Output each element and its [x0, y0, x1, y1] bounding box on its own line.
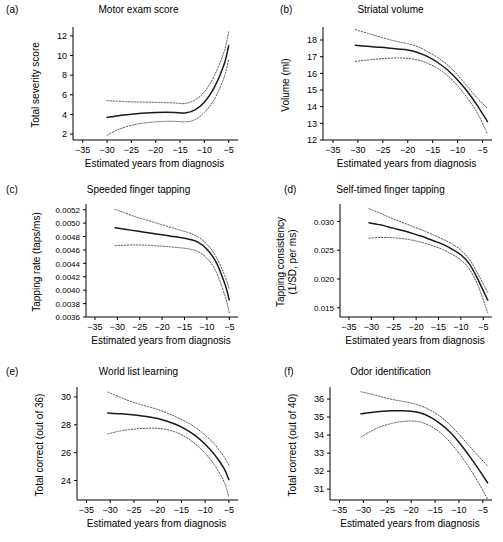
panel-e: (e)World list learning24262830−35−30−25−…	[0, 362, 251, 542]
series-upper-95-ci-e	[108, 392, 229, 465]
x-axis-ticks-b: −35−30−25−20−15−10−5	[325, 140, 487, 155]
axes-d	[340, 204, 492, 317]
x-tick-label: −25	[386, 322, 401, 332]
x-axis-ticks-c: −35−30−25−20−15−10−5	[87, 317, 234, 332]
series-upper-95-ci-c	[115, 209, 229, 289]
axes-a	[73, 27, 238, 140]
x-tick-label: −25	[375, 145, 390, 155]
panel-b: (b)Striatal volume12131415161718−35−30−2…	[252, 0, 503, 180]
y-tick-label: 0.015	[314, 304, 335, 313]
x-tick-label: −15	[177, 322, 192, 332]
y-tick-label: 15	[307, 85, 317, 95]
y-tick-label: 4	[62, 110, 67, 120]
series-lower-95-ci-f	[361, 421, 488, 499]
x-tick-label: −35	[332, 505, 347, 515]
y-tick-label: 0.0042	[56, 273, 81, 282]
axes-f	[330, 387, 492, 500]
plot-area-f: 313233343536−35−30−25−20−15−10−5Estimate…	[252, 362, 503, 542]
y-axis-label-d: (1/SD, per ms)	[287, 229, 298, 294]
x-tick-label: −25	[132, 322, 147, 332]
x-tick-label: −30	[350, 145, 365, 155]
x-tick-label: −25	[124, 145, 139, 155]
x-tick-label: −5	[224, 505, 234, 515]
series-fit-e	[108, 413, 229, 480]
series-lower-95-ci-d	[369, 237, 488, 313]
y-axis-ticks-b: 12131415161718	[307, 35, 323, 145]
x-tick-label: −30	[110, 322, 125, 332]
y-tick-label: 28	[61, 420, 71, 430]
plot-area-b: 12131415161718−35−30−25−20−15−10−5Estima…	[252, 0, 503, 180]
series-fit-d	[369, 223, 488, 300]
panel-a: (a)Motor exam score24681012−35−30−25−20−…	[0, 0, 251, 180]
x-tick-label: −10	[451, 505, 466, 515]
y-axis-ticks-e: 24262830	[61, 392, 77, 486]
x-tick-label: −20	[148, 145, 163, 155]
axes-e	[77, 387, 238, 500]
y-tick-label: 8	[62, 70, 67, 80]
series-fit-a	[107, 46, 229, 118]
x-tick-label: −25	[126, 505, 141, 515]
y-tick-label: 31	[314, 484, 324, 494]
x-tick-label: −35	[87, 322, 102, 332]
x-tick-label: −35	[325, 145, 340, 155]
y-tick-label: 10	[57, 51, 67, 61]
y-tick-label: 24	[61, 476, 71, 486]
y-tick-label: 0.0040	[56, 286, 81, 295]
y-tick-label: 0.0052	[56, 206, 81, 215]
x-tick-label: −15	[431, 322, 446, 332]
x-axis-label-c: Estimated years from diagnosis	[91, 335, 231, 346]
y-tick-label: 0.030	[314, 218, 335, 227]
x-tick-label: −5	[477, 145, 487, 155]
y-axis-ticks-c: 0.00360.00380.00400.00420.00440.00460.00…	[56, 206, 86, 322]
y-tick-label: 0.0050	[56, 219, 81, 228]
x-tick-label: −15	[174, 505, 189, 515]
series-fit-b	[355, 45, 487, 121]
y-axis-label-b: Volume (ml)	[280, 58, 291, 111]
series-lower-95-ci-b	[355, 58, 487, 134]
y-tick-label: 0.025	[314, 246, 335, 255]
y-tick-label: 13	[307, 119, 317, 129]
x-tick-label: −30	[99, 145, 114, 155]
y-tick-label: 36	[314, 394, 324, 404]
x-axis-label-b: Estimated years from diagnosis	[337, 158, 477, 169]
x-axis-ticks-d: −35−30−25−20−15−10−5	[341, 317, 488, 332]
panel-d: (d)Self-timed finger tapping0.0150.0200.…	[252, 180, 503, 360]
y-axis-label-f: Total correct (out of 40)	[287, 394, 298, 497]
x-tick-label: −20	[400, 145, 415, 155]
panel-c: (c)Speeded finger tapping0.00360.00380.0…	[0, 180, 251, 360]
x-axis-ticks-f: −35−30−25−20−15−10−5	[332, 500, 488, 515]
x-tick-label: −20	[408, 322, 423, 332]
x-tick-label: −30	[364, 322, 379, 332]
x-tick-label: −5	[478, 322, 488, 332]
x-tick-label: −5	[478, 505, 488, 515]
x-axis-label-d: Estimated years from diagnosis	[345, 335, 485, 346]
y-tick-label: 0.0044	[56, 260, 81, 269]
panel-f: (f)Odor identification313233343536−35−30…	[252, 362, 503, 542]
x-tick-label: −15	[172, 145, 187, 155]
figure-panel-grid: (a)Motor exam score24681012−35−30−25−20−…	[0, 0, 503, 542]
series-lower-95-ci-e	[108, 428, 229, 497]
x-tick-label: −30	[356, 505, 371, 515]
y-axis-label-c: Tapping rate (taps/ms)	[31, 212, 42, 312]
y-axis-label-e: Total correct (out of 36)	[34, 394, 45, 497]
y-tick-label: 12	[307, 135, 317, 145]
x-tick-label: −35	[341, 322, 356, 332]
series-upper-95-ci-b	[355, 30, 487, 109]
y-tick-label: 0.0036	[56, 313, 81, 322]
series-lower-95-ci-a	[107, 59, 229, 135]
x-tick-label: −10	[198, 505, 213, 515]
x-tick-label: −20	[404, 505, 419, 515]
x-tick-label: −10	[450, 145, 465, 155]
x-tick-label: −35	[75, 145, 90, 155]
x-tick-label: −15	[425, 145, 440, 155]
plot-area-a: 24681012−35−30−25−20−15−10−5Estimated ye…	[0, 0, 251, 180]
x-tick-label: −20	[154, 322, 169, 332]
y-tick-label: 30	[61, 392, 71, 402]
x-tick-label: −10	[197, 145, 212, 155]
plot-area-e: 24262830−35−30−25−20−15−10−5Estimated ye…	[0, 362, 251, 542]
x-axis-label-e: Estimated years from diagnosis	[87, 518, 227, 529]
y-axis-ticks-d: 0.0150.0200.0250.030	[314, 218, 340, 313]
x-axis-ticks-e: −35−30−25−20−15−10−5	[79, 500, 234, 515]
y-axis-ticks-a: 24681012	[57, 31, 73, 139]
x-axis-ticks-a: −35−30−25−20−15−10−5	[75, 140, 234, 155]
